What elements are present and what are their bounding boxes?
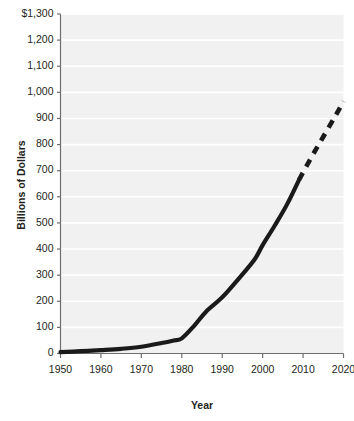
y-tick-label: 100 [36, 320, 54, 332]
x-tick-label: 1960 [89, 363, 113, 375]
y-tick-label: 1,000 [27, 85, 53, 97]
y-tick-label: 1,200 [27, 33, 53, 45]
y-axis-title: Billions of Dollars [15, 140, 27, 229]
x-tick-label: 1970 [130, 363, 154, 375]
x-tick-label: 1980 [170, 363, 194, 375]
x-tick-label: 2020 [332, 363, 354, 375]
line-chart: 01002003004005006007008009001,0001,1001,… [0, 0, 354, 421]
x-axis-title: Year [191, 399, 213, 411]
y-tick-label: 500 [36, 216, 54, 228]
x-tick-label: 1950 [49, 363, 73, 375]
y-tick-label: 200 [36, 294, 54, 306]
y-tick-label: 1,100 [27, 59, 53, 71]
y-tick-label: 800 [36, 137, 54, 149]
y-tick-label: 300 [36, 268, 54, 280]
y-tick-label: $1,300 [21, 7, 53, 19]
x-tick-label: 1990 [211, 363, 235, 375]
x-tick-label: 2000 [251, 363, 275, 375]
x-tick-label: 2010 [291, 363, 315, 375]
y-tick-label: 600 [36, 190, 54, 202]
y-tick-label: 700 [36, 163, 54, 175]
y-tick-label: 900 [36, 111, 54, 123]
chart-container: 01002003004005006007008009001,0001,1001,… [0, 0, 354, 421]
y-tick-label: 400 [36, 242, 54, 254]
y-tick-label: 0 [48, 346, 54, 358]
plot-area-background [61, 14, 344, 353]
